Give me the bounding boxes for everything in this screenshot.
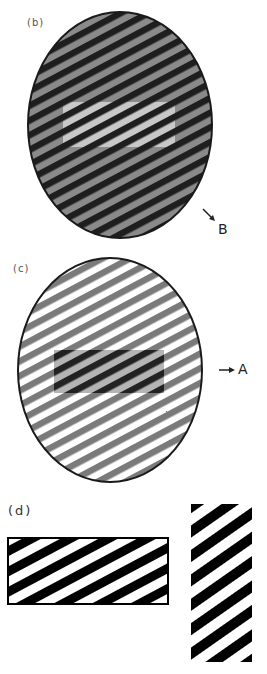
panel-d-vertical-rect bbox=[191, 504, 252, 662]
panel-c bbox=[18, 258, 235, 482]
panel-b-marker-label: B bbox=[218, 221, 228, 237]
panel-c-arrowhead-icon bbox=[229, 367, 235, 373]
panel-c-marker-label: A bbox=[238, 361, 248, 377]
panel-c-inner-rect bbox=[54, 350, 164, 393]
panel-d-label: (d) bbox=[8, 503, 32, 518]
panel-c-label: (c) bbox=[13, 263, 29, 274]
panel-b bbox=[28, 12, 215, 238]
panel-b-label: (b) bbox=[27, 17, 44, 28]
figure-canvas bbox=[0, 0, 267, 674]
panel-b-inner-rect bbox=[63, 102, 175, 147]
panel-d-horizontal-rect bbox=[8, 538, 168, 604]
panel-d bbox=[8, 504, 252, 662]
